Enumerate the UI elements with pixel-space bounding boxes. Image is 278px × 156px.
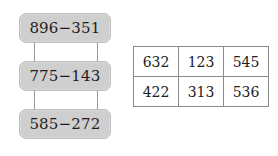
table-cell: 536 — [224, 77, 269, 107]
table-cell: 123 — [179, 47, 224, 77]
table-cell: 545 — [224, 47, 269, 77]
table-cell: 313 — [179, 77, 224, 107]
table-cell: 632 — [134, 47, 179, 77]
expression-box-2: 775−143 — [19, 61, 111, 91]
expression-box-1: 896−351 — [19, 13, 111, 43]
expression-box-3: 585−272 — [19, 109, 111, 139]
connector-line — [34, 91, 35, 109]
connector-line — [34, 43, 35, 61]
connector-line — [97, 91, 98, 109]
answer-table: 632 123 545 422 313 536 — [133, 46, 269, 107]
table-cell: 422 — [134, 77, 179, 107]
connector-line — [97, 43, 98, 61]
table-row: 422 313 536 — [134, 77, 269, 107]
table-row: 632 123 545 — [134, 47, 269, 77]
